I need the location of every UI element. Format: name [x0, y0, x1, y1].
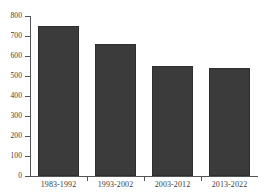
- x-axis-category-label: 2013-2022: [201, 181, 258, 189]
- y-tick-label: 800: [10, 12, 22, 20]
- y-tick-label: 100: [10, 152, 22, 160]
- y-tick-label: 0: [18, 172, 22, 180]
- bar: [209, 68, 250, 176]
- y-tick-label: 200: [10, 132, 22, 140]
- x-axis-category-label: 2003-2012: [144, 181, 201, 189]
- plot-area: [30, 16, 258, 176]
- y-tick-label: 500: [10, 72, 22, 80]
- y-tick-label: 700: [10, 32, 22, 40]
- x-axis-category-label: 1993-2002: [87, 181, 144, 189]
- bar: [95, 44, 136, 176]
- bar: [38, 26, 79, 176]
- y-tick-label: 400: [10, 92, 22, 100]
- bar: [152, 66, 193, 176]
- bar-chart: 0100200300400500600700800 1983-19921993-…: [0, 0, 265, 195]
- y-tick-label: 300: [10, 112, 22, 120]
- x-axis-category-label: 1983-1992: [30, 181, 87, 189]
- y-tick-mark: [25, 176, 30, 177]
- y-tick-label: 600: [10, 52, 22, 60]
